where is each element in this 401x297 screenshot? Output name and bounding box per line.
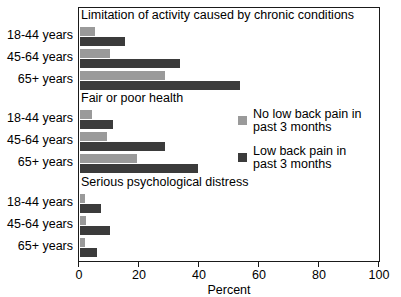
bar-with-pain [80,164,198,173]
panel-title: Limitation of activity caused by chronic… [81,9,354,22]
x-axis: 0 20 40 60 80 100 Percent [78,262,380,297]
bar-with-pain [80,120,113,129]
bar-with-pain [80,81,240,90]
x-tick-label: 40 [192,268,206,282]
category-label: 18-44 years [7,29,73,42]
bar-with-pain [80,37,125,46]
bar-with-pain [80,142,165,151]
panel-title: Serious psychological distress [81,176,248,189]
x-tick-label: 100 [369,268,390,282]
bar-with-pain [80,59,180,68]
x-axis-title: Percent [207,283,250,297]
x-tick [378,262,379,267]
x-tick [138,262,139,267]
bar-no-pain [80,110,92,119]
legend-swatch-icon [238,116,247,125]
category-label: 18-44 years [7,112,73,125]
panel-title: Fair or poor health [81,92,183,105]
bar-with-pain [80,226,110,235]
bar-no-pain [80,154,137,163]
category-label: 65+ years [18,156,73,169]
x-tick [78,262,79,267]
bar-no-pain [80,238,85,247]
bar-no-pain [80,194,85,203]
legend-item-with-pain: Low back pain in past 3 months [238,145,368,171]
x-tick-label: 20 [132,268,146,282]
category-label: 45-64 years [7,218,73,231]
x-tick-label: 60 [252,268,266,282]
bar-with-pain [80,204,101,213]
x-tick [318,262,319,267]
legend-label: No low back pain in past 3 months [253,108,361,134]
bar-with-pain [80,248,97,257]
bar-no-pain [80,27,95,36]
x-tick [258,262,259,267]
x-tick-label: 0 [76,268,83,282]
category-label: 45-64 years [7,51,73,64]
bar-no-pain [80,71,165,80]
category-label: 18-44 years [7,196,73,209]
category-label: 45-64 years [7,134,73,147]
bar-no-pain [80,132,107,141]
legend-swatch-icon [238,153,247,162]
x-tick-label: 80 [312,268,326,282]
bar-no-pain [80,49,110,58]
legend-label: Low back pain in past 3 months [253,145,346,171]
x-tick [198,262,199,267]
category-label: 65+ years [18,240,73,253]
bar-chart: 18-44 years 45-64 years 65+ years 18-44 … [0,0,401,297]
category-label: 65+ years [18,73,73,86]
legend: No low back pain in past 3 months Low ba… [238,108,368,182]
bar-no-pain [80,216,86,225]
legend-item-no-pain: No low back pain in past 3 months [238,108,368,134]
category-label-column: 18-44 years 45-64 years 65+ years 18-44 … [0,0,76,262]
